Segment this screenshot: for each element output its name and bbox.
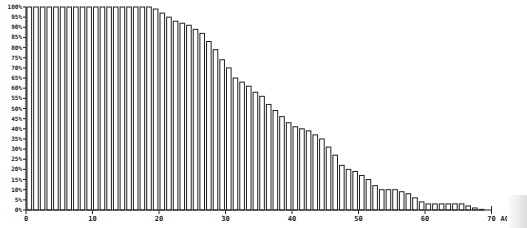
bar — [80, 7, 85, 210]
y-tick-label: 70% — [11, 64, 22, 71]
bar — [300, 129, 305, 210]
bar-chart: 0%5%10%15%20%25%30%35%40%45%50%55%60%65%… — [0, 0, 527, 228]
bar — [326, 147, 331, 210]
bar — [446, 204, 451, 210]
bar — [200, 33, 205, 210]
bar — [406, 194, 411, 210]
bar — [227, 68, 232, 210]
bar — [187, 25, 192, 210]
x-tick-label: 50 — [354, 215, 362, 223]
bar — [366, 180, 371, 210]
bar — [127, 7, 132, 210]
x-tick-label: 0 — [24, 215, 28, 223]
y-axis: 0%5%10%15%20%25%30%35%40%45%50%55%60%65%… — [8, 3, 26, 213]
bar — [466, 206, 471, 210]
bar — [193, 29, 198, 210]
bar — [433, 204, 438, 210]
bar — [54, 7, 59, 210]
bar — [453, 204, 458, 210]
bar — [180, 23, 185, 210]
bar — [353, 171, 358, 210]
bar — [340, 165, 345, 210]
bar — [233, 78, 238, 210]
bar — [27, 7, 32, 210]
bar — [167, 17, 172, 210]
x-tick-label: 70 — [487, 215, 495, 223]
bars — [27, 7, 484, 210]
bar — [240, 82, 245, 210]
bar — [147, 7, 152, 210]
x-tick-label: 20 — [155, 215, 163, 223]
y-tick-label: 15% — [11, 176, 22, 183]
y-tick-label: 40% — [11, 125, 22, 132]
y-tick-label: 20% — [11, 165, 22, 172]
y-tick-label: 60% — [11, 84, 22, 91]
y-tick-label: 85% — [11, 33, 22, 40]
bar — [220, 60, 225, 210]
bar — [286, 123, 291, 210]
bar — [379, 190, 384, 210]
bar — [207, 42, 212, 210]
bar — [413, 198, 418, 210]
y-tick-label: 45% — [11, 115, 22, 122]
y-tick-label: 90% — [11, 23, 22, 30]
bar — [67, 7, 72, 210]
bar — [47, 7, 52, 210]
y-tick-label: 10% — [11, 186, 22, 193]
y-tick-label: 35% — [11, 135, 22, 142]
x-tick-label: 10 — [88, 215, 96, 223]
bar — [133, 7, 138, 210]
bar — [107, 7, 112, 210]
bar — [94, 7, 99, 210]
bar — [253, 92, 258, 210]
bar — [173, 21, 178, 210]
bar — [87, 7, 92, 210]
bar — [393, 190, 398, 210]
bar — [100, 7, 105, 210]
bar — [280, 117, 285, 210]
y-tick-label: 30% — [11, 145, 22, 152]
bar — [293, 127, 298, 210]
bar — [120, 7, 125, 210]
y-tick-label: 100% — [8, 3, 23, 10]
bar — [459, 204, 464, 210]
bar — [346, 169, 351, 210]
bar — [320, 139, 325, 210]
bar — [266, 104, 271, 210]
scan-shadow — [507, 195, 527, 228]
bar — [306, 131, 311, 210]
y-tick-label: 75% — [11, 54, 22, 61]
bar — [426, 204, 431, 210]
bar — [34, 7, 39, 210]
bar — [40, 7, 45, 210]
bar — [419, 202, 424, 210]
y-tick-label: 95% — [11, 13, 22, 20]
bar — [153, 9, 158, 210]
bar — [399, 192, 404, 210]
y-tick-label: 80% — [11, 44, 22, 51]
bar — [386, 190, 391, 210]
y-tick-label: 25% — [11, 155, 22, 162]
y-tick-label: 55% — [11, 94, 22, 101]
y-tick-label: 5% — [15, 196, 23, 203]
bar — [74, 7, 79, 210]
x-tick-label: 30 — [221, 215, 229, 223]
bar — [260, 96, 265, 210]
bar — [246, 86, 251, 210]
bar — [333, 155, 338, 210]
y-tick-label: 65% — [11, 74, 22, 81]
bar — [439, 204, 444, 210]
bar — [373, 186, 378, 210]
bar — [113, 7, 118, 210]
bar — [213, 50, 218, 210]
bar — [313, 135, 318, 210]
x-tick-label: 60 — [421, 215, 429, 223]
bar — [160, 13, 165, 210]
bar — [140, 7, 145, 210]
y-tick-label: 0% — [15, 206, 23, 213]
x-tick-label: 40 — [288, 215, 296, 223]
y-tick-label: 50% — [11, 105, 22, 112]
bar — [360, 175, 365, 210]
bar — [273, 111, 278, 210]
bar — [60, 7, 65, 210]
